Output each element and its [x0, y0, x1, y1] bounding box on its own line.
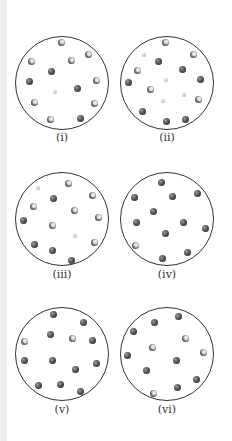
bicolor-molecule-icon	[31, 99, 38, 106]
small-molecule-icon	[164, 78, 168, 82]
bicolor-molecule-icon	[132, 242, 139, 249]
dark-molecule-icon	[31, 241, 38, 248]
small-molecule-icon	[36, 186, 40, 190]
dark-molecule-icon	[182, 116, 189, 123]
bicolor-molecule-icon	[68, 57, 75, 64]
dark-molecule-icon	[80, 319, 87, 326]
dark-molecule-icon	[89, 337, 96, 344]
dark-molecule-icon	[77, 115, 84, 122]
dark-molecule-icon	[124, 352, 131, 359]
dark-molecule-icon	[179, 66, 186, 73]
bicolor-molecule-icon	[134, 67, 141, 74]
dark-molecule-icon	[180, 219, 187, 226]
bicolor-molecule-icon	[71, 207, 78, 214]
small-molecule-icon	[73, 234, 77, 238]
dark-molecule-icon	[174, 384, 181, 391]
dark-molecule-icon	[169, 193, 176, 200]
bicolor-molecule-icon	[65, 180, 72, 187]
dark-molecule-icon	[48, 68, 55, 75]
bicolor-molecule-icon	[58, 39, 65, 46]
bicolor-molecule-icon	[91, 239, 98, 246]
bicolor-molecule-icon	[49, 222, 56, 229]
bicolor-molecule-icon	[21, 338, 28, 345]
small-molecule-icon	[182, 93, 186, 97]
bicolor-molecule-icon	[85, 51, 92, 58]
dark-molecule-icon	[74, 85, 81, 92]
panel-label: (i)	[32, 131, 92, 144]
dark-molecule-icon	[21, 357, 28, 364]
panel-label: (iii)	[32, 268, 92, 281]
bicolor-molecule-icon	[195, 96, 202, 103]
dark-molecule-icon	[139, 108, 146, 115]
dark-molecule-icon	[130, 328, 137, 335]
bicolor-molecule-icon	[91, 100, 98, 107]
small-molecule-icon	[53, 90, 57, 94]
bicolor-molecule-icon	[150, 390, 157, 397]
dark-molecule-icon	[26, 78, 33, 85]
bicolor-molecule-icon	[162, 39, 169, 46]
dark-molecule-icon	[193, 376, 200, 383]
dark-molecule-icon	[35, 382, 42, 389]
dark-molecule-icon	[150, 208, 157, 215]
dark-molecule-icon	[151, 319, 158, 326]
dark-molecule-icon	[57, 381, 64, 388]
dark-molecule-icon	[20, 217, 27, 224]
dark-molecule-icon	[50, 311, 57, 318]
bicolor-molecule-icon	[149, 344, 156, 351]
dark-molecule-icon	[131, 194, 138, 201]
dark-molecule-icon	[68, 257, 75, 264]
bicolor-molecule-icon	[95, 214, 102, 221]
bicolor-molecule-icon	[89, 192, 96, 199]
panel-label: (ii)	[137, 131, 197, 144]
container-circle	[120, 36, 214, 130]
panel-label: (v)	[32, 403, 92, 416]
dark-molecule-icon	[197, 76, 204, 83]
dark-molecule-icon	[184, 249, 191, 256]
dark-molecule-icon	[47, 331, 54, 338]
left-edge-strip	[0, 0, 7, 441]
small-molecule-icon	[142, 53, 146, 57]
bicolor-molecule-icon	[190, 51, 197, 58]
dark-molecule-icon	[77, 388, 84, 395]
small-molecule-icon	[161, 99, 165, 103]
panel-label: (iv)	[137, 268, 197, 281]
dark-molecule-icon	[93, 360, 100, 367]
dark-molecule-icon	[133, 219, 140, 226]
dark-molecule-icon	[72, 366, 79, 373]
dark-molecule-icon	[159, 255, 166, 262]
dark-molecule-icon	[202, 225, 209, 232]
bicolor-molecule-icon	[30, 203, 37, 210]
bicolor-molecule-icon	[182, 335, 189, 342]
dark-molecule-icon	[173, 357, 180, 364]
bicolor-molecule-icon	[47, 116, 54, 123]
dark-molecule-icon	[155, 58, 162, 65]
dark-molecule-icon	[158, 179, 165, 186]
dark-molecule-icon	[49, 357, 56, 364]
dark-molecule-icon	[125, 79, 132, 86]
dark-molecule-icon	[194, 190, 201, 197]
dark-molecule-icon	[143, 367, 150, 374]
bicolor-molecule-icon	[69, 335, 76, 342]
dark-molecule-icon	[49, 247, 56, 254]
bicolor-molecule-icon	[147, 86, 154, 93]
dark-molecule-icon	[162, 230, 169, 237]
bicolor-molecule-icon	[93, 77, 100, 84]
dark-molecule-icon	[163, 118, 170, 125]
panel-label: (vi)	[137, 403, 197, 416]
bicolor-molecule-icon	[200, 349, 207, 356]
bicolor-molecule-icon	[28, 58, 35, 65]
dark-molecule-icon	[175, 313, 182, 320]
dark-molecule-icon	[50, 195, 57, 202]
